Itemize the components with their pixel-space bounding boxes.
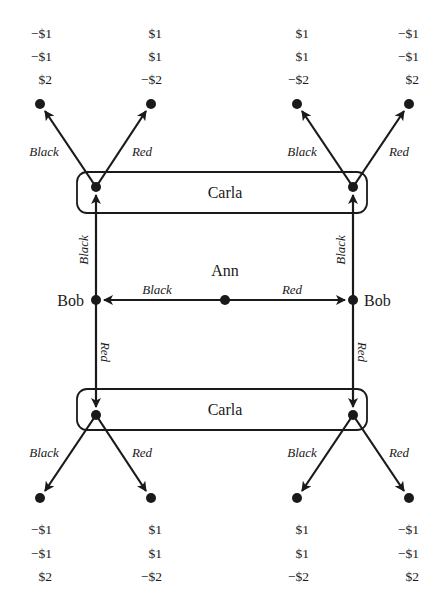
bob-left-node [91,295,101,305]
svg-text:$2: $2 [39,569,53,584]
svg-text:$1: $1 [296,546,310,561]
carla-bl-red-label: Red [131,445,153,460]
svg-text:−$2: −$2 [288,72,309,87]
svg-text:$2: $2 [39,72,53,87]
carla-tl-red-label: Red [131,144,153,159]
carla-tr-red-label: Red [388,144,410,159]
payoff-top-3: $1 $1 −$2 [288,26,309,87]
bob-right-label: Bob [364,292,391,309]
carla-br-red-label: Red [388,445,410,460]
leaf-node [146,99,156,109]
bob-left-black-label: Black [76,235,91,265]
svg-text:$2: $2 [406,72,420,87]
carla-top-left-node [91,182,101,192]
payoff-bottom-4: −$1 −$1 $2 [398,522,419,584]
svg-text:$1: $1 [296,522,310,537]
bob-right-red-label: Red [355,341,370,363]
svg-text:$1: $1 [149,522,163,537]
carla-br-black-label: Black [287,445,317,460]
ann-label: Ann [211,262,239,279]
svg-text:$1: $1 [149,26,163,41]
carla-tl-black-label: Black [29,144,59,159]
ann-node [220,295,230,305]
bob-right-node [348,295,358,305]
ann-red-label: Red [281,282,303,297]
leaf-node [292,99,302,109]
carla-bottom-left-node [91,410,101,420]
carla-tr-black-label: Black [287,144,317,159]
leaf-node [292,493,302,503]
carla-bottom-label: Carla [208,401,243,418]
svg-text:−$1: −$1 [31,522,52,537]
leaf-node [404,99,414,109]
payoff-top-4: −$1 −$1 $2 [398,26,419,87]
carla-bottom-right-node [348,410,358,420]
svg-text:$1: $1 [149,49,163,64]
payoff-bottom-2: $1 $1 −$2 [141,522,162,584]
svg-text:$1: $1 [296,49,310,64]
bob-left-red-label: Red [98,341,113,363]
svg-text:−$1: −$1 [398,546,419,561]
svg-text:−$2: −$2 [141,569,162,584]
svg-text:−$1: −$1 [398,26,419,41]
svg-text:$2: $2 [406,569,420,584]
carla-bl-black-label: Black [29,445,59,460]
ann-black-label: Black [142,282,172,297]
game-tree-diagram: Ann Bob Bob Carla Carla Black Red Black … [0,0,442,616]
bob-right-black-label: Black [333,235,348,265]
svg-text:−$2: −$2 [288,569,309,584]
payoff-bottom-3: $1 $1 −$2 [288,522,309,584]
payoff-top-1: −$1 −$1 $2 [31,26,52,87]
svg-text:−$1: −$1 [398,522,419,537]
leaf-node [35,99,45,109]
payoff-top-2: $1 $1 −$2 [141,26,162,87]
svg-text:−$1: −$1 [398,49,419,64]
svg-text:$1: $1 [296,26,310,41]
payoff-bottom-1: −$1 −$1 $2 [31,522,52,584]
carla-top-label: Carla [208,184,243,201]
carla-top-right-node [348,182,358,192]
bob-left-label: Bob [57,292,84,309]
svg-text:−$1: −$1 [31,546,52,561]
svg-text:−$1: −$1 [31,49,52,64]
svg-text:−$1: −$1 [31,26,52,41]
leaf-node [35,493,45,503]
svg-text:−$2: −$2 [141,72,162,87]
leaf-node [146,493,156,503]
leaf-node [404,493,414,503]
svg-text:$1: $1 [149,546,163,561]
